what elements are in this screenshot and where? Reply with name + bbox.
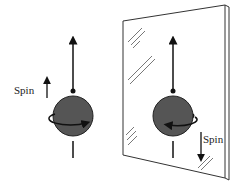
- sphere: [153, 96, 193, 136]
- sphere: [53, 96, 93, 136]
- spin-label: Spin: [14, 84, 35, 96]
- spin-label-mirrored: Spin: [203, 133, 224, 145]
- spin-mirror-diagram: Spin Spin: [0, 0, 240, 184]
- original-particle: Spin: [14, 40, 93, 158]
- mirror: [123, 5, 229, 180]
